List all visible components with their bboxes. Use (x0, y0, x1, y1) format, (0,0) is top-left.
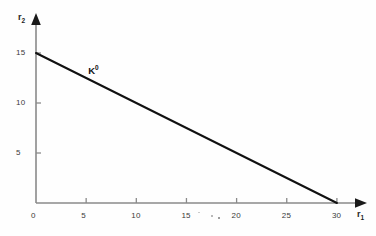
y-axis-arrow-icon (31, 13, 41, 25)
y-axis-tick-label: 10 (16, 98, 25, 107)
isoquant-label: K0 (88, 64, 99, 76)
x-axis-label-subscript: 1 (361, 214, 365, 221)
data-series-group (36, 53, 337, 203)
isoquant-label-superscript: 0 (95, 64, 99, 71)
x-axis-tick-label: 5 (81, 211, 86, 220)
x-axis-tick-label: 30 (332, 211, 341, 220)
y-axis-label-subscript: 2 (22, 17, 26, 24)
line-chart-figure: 05101520253051015K0 r2 r1 (0, 0, 376, 236)
x-axis-tick-label: 20 (232, 211, 241, 220)
x-axis-tick-label: 0 (31, 211, 36, 220)
x-axis-label: r1 (357, 209, 364, 221)
y-axis-label: r2 (18, 12, 25, 24)
x-axis-arrow-icon (355, 198, 367, 208)
x-axis-tick-label: 25 (282, 211, 291, 220)
x-axis-tick-label: 15 (181, 211, 190, 220)
smudge-b-artifact (211, 215, 213, 217)
isoquant-label-base: K (88, 65, 95, 76)
y-axis-tick-label: 15 (16, 48, 25, 57)
x-axis-tick-label: 10 (131, 211, 140, 220)
data-line-K0 (36, 53, 337, 203)
plot-canvas (0, 0, 376, 236)
smudge-a-artifact (198, 212, 200, 214)
y-axis-tick-label: 5 (16, 148, 21, 157)
